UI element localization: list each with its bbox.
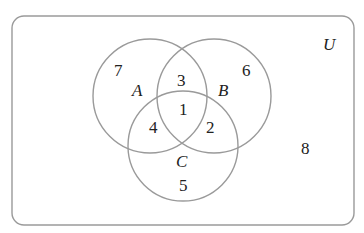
set-c-label: C bbox=[176, 152, 188, 171]
region-a-and-b: 3 bbox=[177, 71, 186, 90]
set-b-label: B bbox=[218, 81, 229, 100]
region-c-only: 5 bbox=[179, 176, 188, 195]
venn-diagram: U A B C 7 6 5 3 4 2 1 8 bbox=[0, 0, 364, 233]
region-a-only: 7 bbox=[114, 61, 123, 80]
region-b-only: 6 bbox=[242, 61, 251, 80]
region-b-and-c: 2 bbox=[206, 118, 215, 137]
set-a-label: A bbox=[131, 81, 143, 100]
region-a-and-c: 4 bbox=[149, 118, 158, 137]
region-outside: 8 bbox=[301, 139, 310, 158]
universe-label: U bbox=[323, 35, 337, 54]
region-a-b-c: 1 bbox=[179, 100, 188, 119]
